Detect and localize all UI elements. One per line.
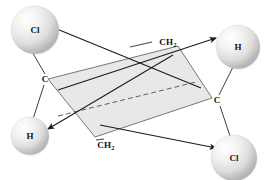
ch2-top-label: CH2 [159,38,176,47]
ch2-top-subscript: 2 [173,41,176,48]
arrow-to-cl-bottom-right [100,125,216,148]
carbon-right-label: C [214,96,221,105]
h-top-right-label: H [234,42,241,52]
cyclopropane-plane [48,46,212,137]
bond-c-left-to-h [33,85,44,119]
ch2-bottom-label: CH2 [97,141,114,150]
carbon-left-label: C [42,75,49,84]
cl-top-left-label: Cl [31,25,40,35]
bond-c-right-to-h [219,67,233,95]
molecule-diagram: ClHHCl CC CH2CH2 [0,0,267,180]
h-bottom-left-label: H [26,131,33,141]
cl-bottom-right-label: Cl [230,153,239,163]
diagram-graphics [0,0,267,180]
ch2-bottom-subscript: 2 [111,144,114,151]
connector-ch2-top [130,42,152,47]
bond-c-right-to-cl [220,106,230,136]
